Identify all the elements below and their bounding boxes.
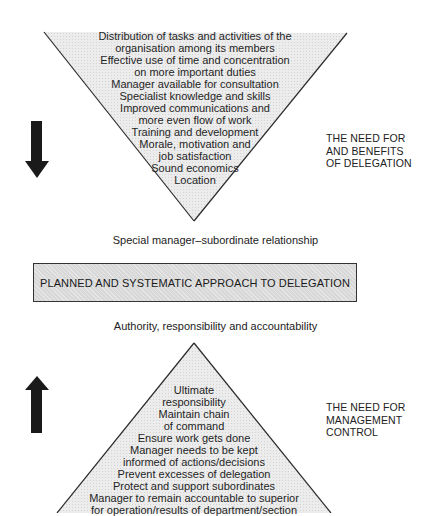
list-item: Protect and support subordinates: [84, 480, 304, 492]
list-item: Ultimate: [84, 384, 304, 396]
list-item: Distribution of tasks and activities of …: [95, 30, 295, 42]
delegation-approach-box: PLANNED AND SYSTEMATIC APPROACH TO DELEG…: [33, 263, 357, 302]
list-item: organisation among its members: [95, 42, 295, 54]
box-title: PLANNED AND SYSTEMATIC APPROACH TO DELEG…: [40, 277, 350, 289]
list-item: Sound economics: [95, 162, 295, 174]
relationship-caption: Special manager–subordinate relationship: [0, 234, 431, 246]
list-item: job satisfaction: [95, 150, 295, 162]
label-line: CONTROL: [326, 426, 405, 439]
list-item: Manager to remain accountable to superio…: [84, 492, 304, 504]
list-item: Prevent excesses of delegation: [84, 468, 304, 480]
label-line: OF DELEGATION: [326, 157, 412, 170]
management-control-label: THE NEED FOR MANAGEMENT CONTROL: [326, 401, 405, 439]
list-item: Training and development: [95, 126, 295, 138]
arrow-down-icon: [25, 121, 49, 178]
list-item: Improved communications and: [95, 102, 295, 114]
list-item: Ensure work gets done: [84, 432, 304, 444]
list-item: responsibility: [84, 396, 304, 408]
list-item: Maintain chain: [84, 408, 304, 420]
delegation-benefits-list: Distribution of tasks and activities of …: [95, 30, 295, 186]
authority-caption: Authority, responsibility and accountabi…: [0, 320, 431, 332]
list-item: of command: [84, 420, 304, 432]
list-item: Morale, motivation and: [95, 138, 295, 150]
delegation-need-label: THE NEED FOR AND BENEFITS OF DELEGATION: [326, 132, 412, 170]
list-item: Manager needs to be kept: [84, 444, 304, 456]
list-item: on more important duties: [95, 66, 295, 78]
management-control-list: Ultimate responsibility Maintain chain o…: [84, 384, 304, 516]
list-item: more even flow of work: [95, 114, 295, 126]
label-line: THE NEED FOR: [326, 401, 405, 414]
label-line: MANAGEMENT: [326, 414, 405, 427]
list-item: informed of actions/decisions: [84, 456, 304, 468]
list-item: Specialist knowledge and skills: [95, 90, 295, 102]
list-item: Effective use of time and concentration: [95, 54, 295, 66]
arrow-up-icon: [25, 376, 49, 433]
list-item: Location: [95, 174, 295, 186]
label-line: THE NEED FOR: [326, 132, 412, 145]
list-item: Manager available for consultation: [95, 78, 295, 90]
list-item: for operation/results of department/sect…: [84, 504, 304, 516]
label-line: AND BENEFITS: [326, 145, 412, 158]
